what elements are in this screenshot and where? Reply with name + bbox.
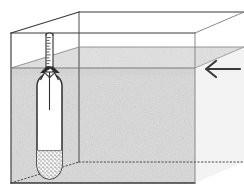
hydrometer-diagram bbox=[0, 0, 244, 192]
liquid-right-face bbox=[195, 47, 244, 183]
tank-edge-top-left-receding bbox=[11, 12, 79, 33]
tank-edge-top-right-receding bbox=[195, 12, 244, 33]
hydrometer-stem-top-cap bbox=[46, 33, 53, 36]
figure-canvas bbox=[0, 0, 244, 192]
liquid-surface-shading bbox=[11, 68, 195, 75]
